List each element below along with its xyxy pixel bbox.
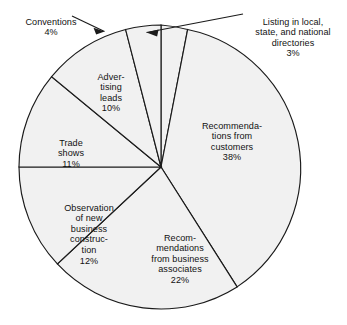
pie-label-conventions-percent: 4%: [8, 27, 94, 38]
pie-label-trade-shows-percent: 11%: [38, 159, 104, 170]
pie-label-listing: Listing in local, state, and national di…: [243, 6, 343, 70]
pie-label-observation-percent: 12%: [44, 256, 134, 267]
pie-label-trade-shows: Trade shows 11%: [38, 127, 104, 180]
pie-label-recommendations-from-customers-text: Recommenda- tions from customers: [202, 121, 262, 152]
pie-label-recommendations-from-business-associates-text: Recom- mendations from business associat…: [151, 233, 208, 275]
pie-chart: Conventions 4% Listing in local, state, …: [0, 0, 347, 325]
pie-label-recommendations-from-customers-percent: 38%: [186, 152, 278, 163]
pie-label-listing-percent: 3%: [243, 48, 343, 59]
pie-label-advertising-leads-percent: 10%: [80, 103, 142, 114]
pie-label-observation: Observation of new business construc- ti…: [44, 192, 134, 277]
pie-label-observation-text: Observation of new business construc- ti…: [64, 203, 114, 255]
pie-label-advertising-leads-text: Adver- tising leads: [97, 72, 124, 103]
pie-label-conventions-text: Conventions: [25, 17, 76, 27]
pie-label-listing-text: Listing in local, state, and national di…: [255, 17, 330, 48]
pie-label-advertising-leads: Adver- tising leads 10%: [80, 61, 142, 125]
pie-label-trade-shows-text: Trade shows: [58, 138, 84, 159]
leader-line-listing: [147, 14, 244, 33]
pie-label-conventions: Conventions 4%: [8, 6, 94, 48]
pie-label-recommendations-from-customers: Recommenda- tions from customers 38%: [186, 110, 278, 174]
pie-label-recommendations-from-business-associates-percent: 22%: [132, 275, 228, 286]
pie-label-recommendations-from-business-associates: Recom- mendations from business associat…: [132, 222, 228, 296]
